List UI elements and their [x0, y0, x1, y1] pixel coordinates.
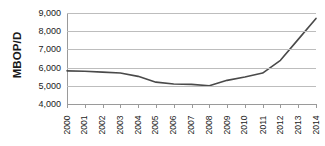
x-tick-label-2012: 2012: [274, 109, 286, 143]
x-tick-label-text: 2008: [204, 116, 214, 135]
x-tick-2011: [263, 104, 264, 108]
x-tick-label-text: 2011: [258, 116, 268, 134]
x-tick-label-text: 2003: [115, 116, 125, 135]
x-tick-label-2001: 2001: [79, 109, 91, 143]
x-tick-label-text: 2012: [275, 116, 285, 135]
x-tick-2004: [138, 104, 139, 108]
x-tick-label-2003: 2003: [114, 109, 126, 143]
x-tick-2000: [67, 104, 68, 108]
y-tick-label-4000: 4,000: [38, 99, 61, 109]
x-tick-label-text: 2007: [187, 116, 197, 135]
x-tick-label-text: 2000: [62, 116, 72, 135]
x-tick-label-text: 2006: [169, 116, 179, 135]
y-axis-tick-labels: 4,0005,0006,0007,0008,0009,000: [24, 0, 64, 146]
series-polyline: [67, 18, 316, 85]
x-tick-label-2007: 2007: [186, 109, 198, 143]
y-tick-label-8000: 8,000: [38, 26, 61, 36]
gridline-5000: [67, 86, 316, 87]
y-tick-label-7000: 7,000: [38, 44, 61, 54]
y-tick-label-6000: 6,000: [38, 63, 61, 73]
x-tick-2006: [174, 104, 175, 108]
x-tick-label-2014: 2014: [310, 109, 322, 143]
x-tick-label-2009: 2009: [221, 109, 233, 143]
x-tick-2001: [85, 104, 86, 108]
y-axis-title-label: MBOP/D: [11, 32, 23, 79]
x-tick-2007: [192, 104, 193, 108]
x-tick-label-2005: 2005: [150, 109, 162, 143]
y-tick-label-9000: 9,000: [38, 8, 61, 18]
x-tick-2009: [227, 104, 228, 108]
x-tick-label-text: 2001: [80, 116, 90, 135]
x-tick-2002: [103, 104, 104, 108]
x-tick-2013: [298, 104, 299, 108]
x-tick-label-2008: 2008: [203, 109, 215, 143]
gridline-7000: [67, 49, 316, 50]
x-tick-label-text: 2004: [133, 116, 143, 135]
x-axis-tick-labels: 2000200120022003200420052006200720082009…: [67, 109, 316, 146]
x-tick-2010: [245, 104, 246, 108]
y-tick-label-5000: 5,000: [38, 81, 61, 91]
series-line: [67, 13, 316, 104]
plot-area: [67, 13, 316, 104]
x-tick-label-2004: 2004: [132, 109, 144, 143]
x-tick-2012: [280, 104, 281, 108]
gridline-6000: [67, 68, 316, 69]
x-tick-label-text: 2014: [311, 116, 321, 135]
x-tick-2005: [156, 104, 157, 108]
x-tick-label-2013: 2013: [292, 109, 304, 143]
x-tick-label-text: 2009: [222, 116, 232, 135]
x-tick-2003: [120, 104, 121, 108]
x-tick-label-text: 2005: [151, 116, 161, 135]
x-tick-label-2002: 2002: [97, 109, 109, 143]
x-tick-label-text: 2002: [98, 116, 108, 135]
x-tick-label-2010: 2010: [239, 109, 251, 143]
x-tick-label-2011: 2011: [257, 109, 269, 143]
x-tick-2008: [209, 104, 210, 108]
x-tick-label-text: 2013: [293, 116, 303, 135]
line-chart: MBOP/D 4,0005,0006,0007,0008,0009,000 20…: [0, 0, 325, 146]
gridline-9000: [67, 13, 316, 14]
x-tick-label-text: 2010: [240, 116, 250, 135]
gridline-8000: [67, 31, 316, 32]
x-tick-2014: [316, 104, 317, 108]
x-tick-label-2006: 2006: [168, 109, 180, 143]
x-tick-label-2000: 2000: [61, 109, 73, 143]
